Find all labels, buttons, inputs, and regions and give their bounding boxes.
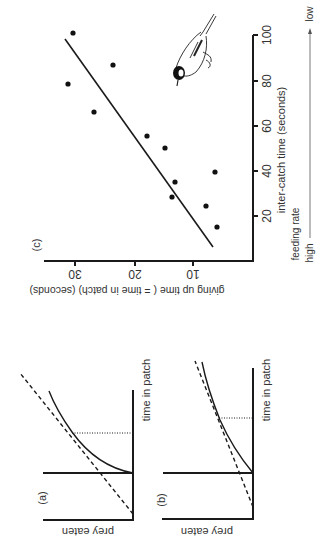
tangent-line-b [195, 361, 253, 507]
ylabel-a: prey eaten [62, 526, 114, 538]
x-tick-label: 80 [260, 74, 274, 88]
data-point [70, 30, 75, 35]
x-tick-label: 20 [260, 209, 274, 223]
panel-c: 100 80 60 40 20 30 20 10 inter-catch tim… [29, 6, 315, 297]
y-axis-label: giving up time ( = time in patch) (secon… [29, 285, 224, 297]
x-tick-label: 100 [260, 25, 274, 45]
data-points [65, 30, 219, 229]
feeding-rate-label: feeding rate [290, 207, 301, 260]
rate-low-label: low [304, 6, 315, 22]
data-point [65, 81, 70, 86]
data-point [91, 109, 96, 114]
arrow-head-icon [308, 28, 312, 34]
panel-label-c: (c) [30, 239, 42, 252]
panel-b: (b) time in patch prey eaten [155, 359, 272, 538]
data-point [144, 133, 149, 138]
data-point [212, 169, 217, 174]
bird-illustration-icon [173, 14, 216, 86]
data-point [203, 203, 208, 208]
x-ticks: 100 80 60 40 20 [253, 25, 274, 223]
data-point [169, 194, 174, 199]
x-axis-label: inter-catch time (seconds) [275, 87, 287, 214]
data-point [172, 179, 177, 184]
x-tick-label: 40 [260, 164, 274, 178]
panel-label-a: (a) [36, 491, 48, 504]
data-point [162, 145, 167, 150]
y-tick-label: 30 [68, 267, 82, 281]
xlabel-b: time in patch [260, 359, 272, 421]
xlabel-a: time in patch [140, 359, 152, 421]
regression-line [65, 39, 213, 247]
data-point [110, 62, 115, 67]
ylabel-b: prey eaten [181, 526, 233, 538]
panel-a: (a) time in patch prey eaten [20, 359, 152, 538]
y-tick-label: 20 [128, 267, 142, 281]
data-point [214, 224, 219, 229]
rate-high-label: high [304, 244, 315, 263]
panel-label-b: (b) [155, 493, 167, 506]
figure: 100 80 60 40 20 30 20 10 inter-catch tim… [0, 0, 322, 549]
y-tick-label: 10 [186, 267, 200, 281]
x-tick-label: 60 [260, 119, 274, 133]
y-ticks: 30 20 10 [68, 261, 200, 281]
gain-curve-a [49, 391, 133, 473]
